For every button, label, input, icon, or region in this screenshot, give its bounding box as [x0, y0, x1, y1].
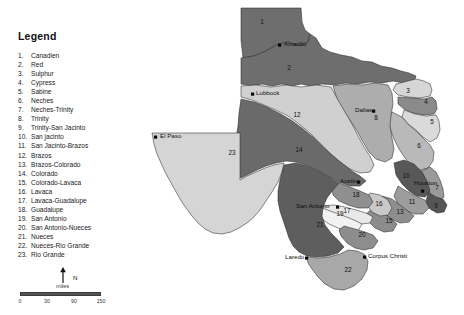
basin-number-label: 2 — [287, 64, 291, 71]
basin-number-label: 8 — [374, 114, 378, 121]
basin-number-label: 21 — [316, 221, 324, 228]
basin-number-label: 3 — [406, 87, 410, 94]
city-marker-icon[interactable] — [305, 257, 308, 260]
city-marker-icon[interactable] — [154, 136, 157, 139]
city-marker-icon[interactable] — [372, 110, 375, 113]
texas-river-basins-map-page: Legend 1.Canadien2.Red3.Sulphur4.Cypress… — [0, 0, 464, 315]
city-marker-icon[interactable] — [278, 44, 281, 47]
basin-number-label: 14 — [295, 146, 303, 153]
basin-number-label: 16 — [375, 200, 383, 207]
city-label: El Paso — [160, 132, 182, 139]
city-label: Lubbock — [256, 89, 280, 96]
city-label: Amarillo — [284, 40, 307, 47]
basin-number-label: 10 — [402, 172, 410, 179]
city-marker-icon[interactable] — [421, 190, 424, 193]
city-label: Dallas — [355, 106, 372, 113]
basin-number-label: 6 — [417, 142, 421, 149]
basin-number-label: 22 — [344, 266, 352, 273]
basin-number-label: 11 — [409, 198, 416, 205]
city-marker-icon[interactable] — [336, 206, 339, 209]
basin-number-label: 18 — [352, 191, 360, 198]
basin-number-label: 15 — [385, 217, 393, 224]
city-marker-icon[interactable] — [363, 256, 366, 259]
city-marker-icon[interactable] — [251, 93, 254, 96]
basin-number-label: 23 — [228, 149, 236, 156]
basin-number-label: 19 — [336, 210, 344, 217]
city-label: San Antonio — [296, 202, 330, 209]
city-label: Corpus Christi — [368, 252, 407, 259]
city-label: Laredo — [285, 253, 305, 260]
basin-number-label: 17 — [343, 207, 351, 214]
texas-basins-svg: 1234567891011121314151617181920212223 Am… — [0, 0, 464, 315]
city-label: Houston — [414, 179, 438, 186]
city-marker-icon[interactable] — [357, 181, 360, 184]
map-canvas: 1234567891011121314151617181920212223 Am… — [0, 0, 464, 315]
basin-number-label: 4 — [424, 98, 428, 105]
basin-number-label: 1 — [260, 18, 264, 25]
basin-number-label: 12 — [293, 111, 301, 118]
basin-number-label: 13 — [396, 208, 404, 215]
basin-number-label: 9 — [434, 202, 438, 209]
city-label: Austin — [340, 177, 358, 184]
basin-number-label: 20 — [358, 231, 366, 238]
basin-number-label: 5 — [430, 118, 434, 125]
